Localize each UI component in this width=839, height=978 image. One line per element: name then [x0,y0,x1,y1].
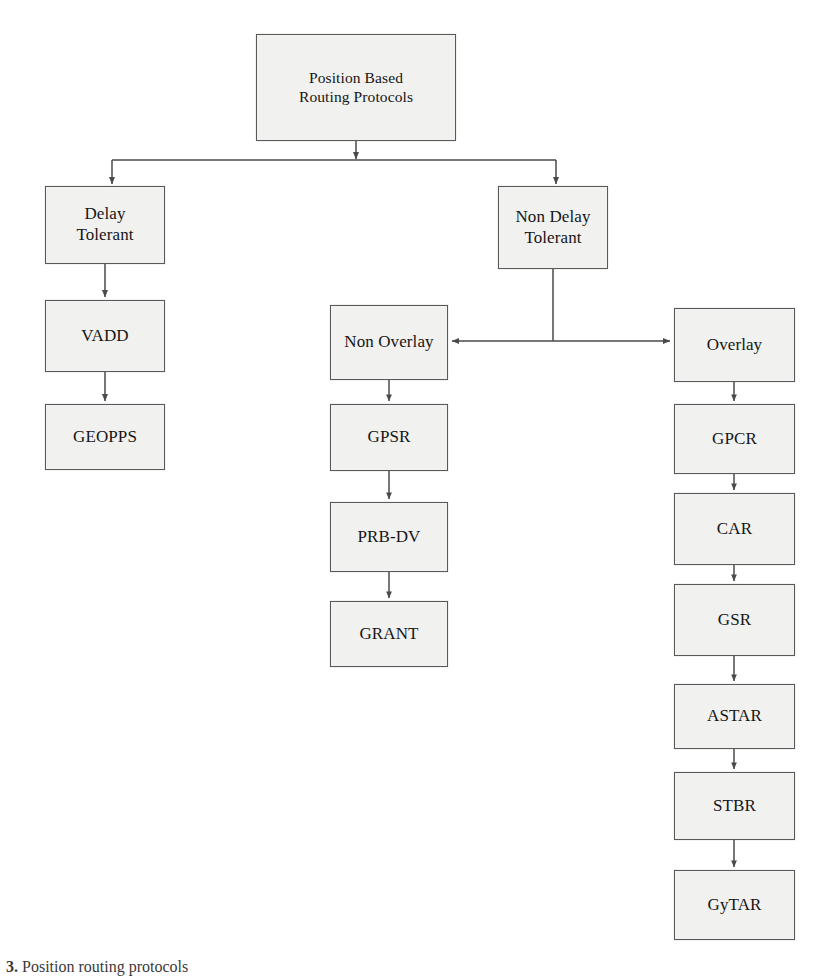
node-non-overlay[interactable]: Non Overlay [330,305,448,380]
node-gytar-label: GyTAR [704,895,766,916]
node-gpsr[interactable]: GPSR [330,404,448,471]
node-gpcr-label: GPCR [708,429,761,450]
node-gsr[interactable]: GSR [674,584,795,656]
node-non-delay-tolerant[interactable]: Non Delay Tolerant [498,186,608,269]
figure-caption-text: Position routing protocols [22,958,188,975]
node-root-label: Position Based Routing Protocols [295,69,417,107]
node-non-overlay-label: Non Overlay [340,332,437,353]
node-gpcr[interactable]: GPCR [674,404,795,474]
figure-caption: 3. Position routing protocols [6,958,188,978]
diagram-canvas: Position Based Routing Protocols Delay T… [0,0,839,978]
node-prb-dv[interactable]: PRB-DV [330,502,448,572]
node-vadd-label: VADD [77,326,132,347]
node-non-delay-tolerant-label: Non Delay Tolerant [511,207,594,248]
node-astar-label: ASTAR [703,706,766,727]
node-root[interactable]: Position Based Routing Protocols [256,34,456,141]
node-prb-dv-label: PRB-DV [354,527,425,548]
node-gpsr-label: GPSR [364,427,415,448]
node-grant[interactable]: GRANT [330,601,448,667]
node-geopps[interactable]: GEOPPS [45,404,165,470]
node-delay-tolerant[interactable]: Delay Tolerant [45,186,165,264]
node-stbr-label: STBR [709,796,760,817]
node-astar[interactable]: ASTAR [674,684,795,749]
node-grant-label: GRANT [355,624,422,645]
node-gytar[interactable]: GyTAR [674,870,795,940]
node-vadd[interactable]: VADD [45,300,165,372]
node-car-label: CAR [713,519,756,540]
node-overlay[interactable]: Overlay [674,308,795,382]
node-stbr[interactable]: STBR [674,772,795,840]
node-overlay-label: Overlay [703,335,766,356]
figure-caption-number: 3. [6,958,18,975]
node-car[interactable]: CAR [674,493,795,565]
node-gsr-label: GSR [714,610,755,631]
node-delay-tolerant-label: Delay Tolerant [72,204,137,245]
node-geopps-label: GEOPPS [69,427,141,448]
